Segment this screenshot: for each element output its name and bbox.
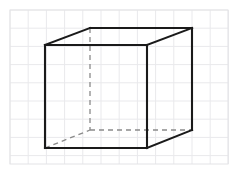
figure-canvas (0, 0, 239, 174)
cube-figure (0, 0, 239, 174)
